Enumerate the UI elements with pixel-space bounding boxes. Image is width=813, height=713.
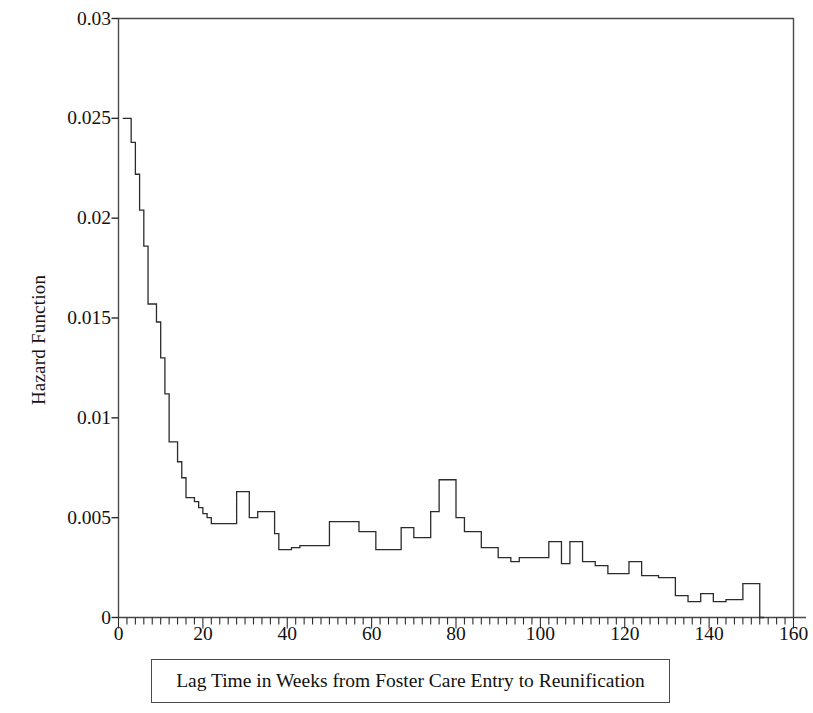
x-tick-label: 20 bbox=[163, 624, 243, 644]
x-tick-label: 120 bbox=[585, 624, 665, 644]
x-tick-label: 40 bbox=[247, 624, 327, 644]
x-tick-label: 160 bbox=[754, 624, 813, 644]
x-tick-label: 100 bbox=[500, 624, 580, 644]
x-tick-label: 80 bbox=[416, 624, 496, 644]
x-axis-label-box: Lag Time in Weeks from Foster Care Entry… bbox=[151, 659, 670, 703]
x-axis-label: Lag Time in Weeks from Foster Care Entry… bbox=[152, 660, 669, 702]
x-tick-label: 0 bbox=[79, 624, 159, 644]
x-tick-label: 140 bbox=[669, 624, 749, 644]
x-tick-label: 60 bbox=[332, 624, 412, 644]
